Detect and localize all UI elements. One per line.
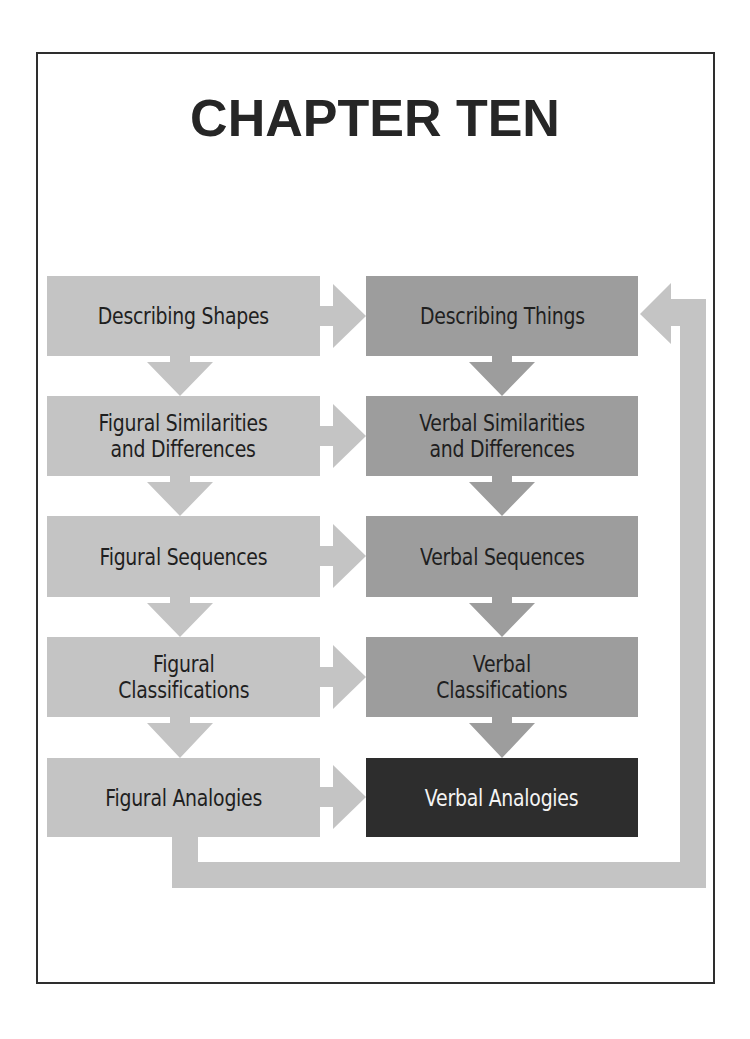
box-label: Figural Sequences bbox=[100, 544, 268, 570]
box-figural-similarities-differences: Figural Similarities and Differences bbox=[47, 396, 320, 476]
box-label: Figural Similarities and Differences bbox=[99, 410, 268, 462]
box-label: Figural Classifications bbox=[118, 651, 249, 703]
box-label: Verbal Sequences bbox=[420, 544, 584, 570]
arrow-right-icon bbox=[318, 765, 366, 829]
arrow-down-icon bbox=[147, 595, 213, 637]
box-verbal-classifications: Verbal Classifications bbox=[366, 637, 638, 717]
box-label: Describing Shapes bbox=[98, 303, 269, 329]
box-label: Verbal Similarities and Differences bbox=[419, 410, 585, 462]
arrow-down-icon bbox=[469, 354, 535, 396]
box-figural-analogies: Figural Analogies bbox=[47, 758, 320, 837]
arrow-down-icon bbox=[469, 474, 535, 516]
arrow-down-icon bbox=[147, 715, 213, 758]
box-describing-shapes: Describing Shapes bbox=[47, 276, 320, 356]
box-label: Describing Things bbox=[420, 303, 585, 329]
arrow-down-icon bbox=[469, 595, 535, 637]
arrow-down-icon bbox=[147, 474, 213, 516]
box-figural-classifications: Figural Classifications bbox=[47, 637, 320, 717]
box-verbal-analogies-highlighted: Verbal Analogies bbox=[366, 758, 638, 837]
box-label: Verbal Classifications bbox=[437, 651, 568, 703]
arrow-right-icon bbox=[318, 524, 366, 588]
box-label: Verbal Analogies bbox=[425, 785, 578, 811]
box-figural-sequences: Figural Sequences bbox=[47, 516, 320, 597]
arrow-right-icon bbox=[318, 645, 366, 709]
arrow-right-icon bbox=[318, 284, 366, 348]
box-verbal-sequences: Verbal Sequences bbox=[366, 516, 638, 597]
horizontal-arrows bbox=[318, 284, 366, 829]
arrow-right-icon bbox=[318, 404, 366, 468]
box-describing-things: Describing Things bbox=[366, 276, 638, 356]
box-verbal-similarities-differences: Verbal Similarities and Differences bbox=[366, 396, 638, 476]
arrow-down-icon bbox=[469, 715, 535, 758]
box-label: Figural Analogies bbox=[105, 785, 262, 811]
arrow-down-icon bbox=[147, 354, 213, 396]
